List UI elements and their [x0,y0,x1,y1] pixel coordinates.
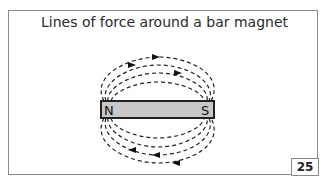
bar-magnet [101,101,214,118]
page-number: 25 [291,158,319,176]
magnetic-field-diagram: N S [0,0,329,187]
north-pole-label: N [104,103,114,118]
south-pole-label: S [201,103,209,118]
